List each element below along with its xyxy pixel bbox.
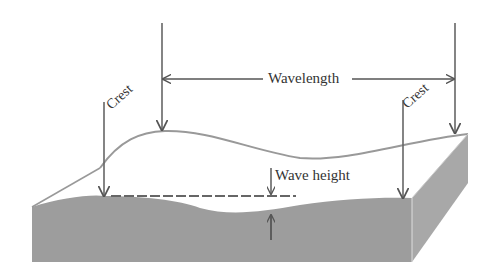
wavelength-label: Wavelength [268, 70, 339, 87]
wave-diagram [0, 0, 495, 280]
wave-height-label: Wave height [275, 167, 350, 184]
block-front-face [32, 195, 412, 262]
block-side-face [412, 134, 468, 262]
wave-surface-line [100, 131, 468, 168]
